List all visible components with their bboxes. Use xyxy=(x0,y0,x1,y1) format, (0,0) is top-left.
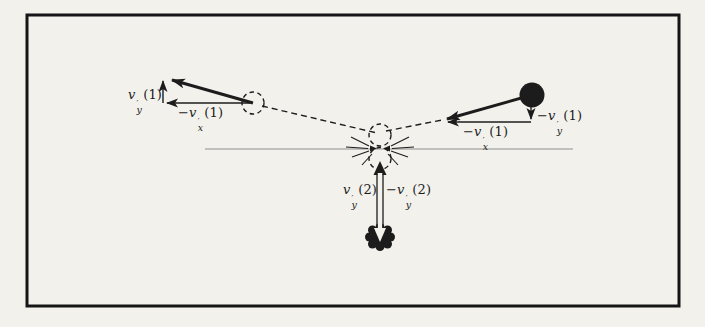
particle1-ghost-center xyxy=(369,124,391,146)
double-shaft-fill xyxy=(378,173,383,229)
label-right-vx: −v′x(1) xyxy=(463,124,508,152)
dashed-path-left xyxy=(262,106,377,133)
right-velocity-triangle xyxy=(447,83,545,123)
label-left-vy: v′y(1) xyxy=(128,87,162,115)
dashed-path-right xyxy=(386,120,442,131)
collision-starburst-icon xyxy=(346,137,414,165)
impact-arrow-left-icon xyxy=(370,146,377,152)
label-right-vy: −v′y(1) xyxy=(537,108,582,136)
figure-frame xyxy=(27,15,679,306)
collision-figure: v′y(1) −v′x(1) −v′y(1) −v′x(1) v′y(2) −v… xyxy=(0,0,705,327)
label-bottom-neg-vy: −v′y(2) xyxy=(386,182,431,210)
label-bottom-vy: v′y(2) xyxy=(343,182,377,210)
label-left-vx: −v′x(1) xyxy=(178,105,223,133)
left-resultant-arrow xyxy=(172,80,253,103)
right-resultant-arrow xyxy=(447,95,532,119)
impact-arrow-right-icon xyxy=(383,146,390,152)
trajectory-dashes xyxy=(262,106,442,133)
collision-diagram-canvas xyxy=(0,0,705,327)
